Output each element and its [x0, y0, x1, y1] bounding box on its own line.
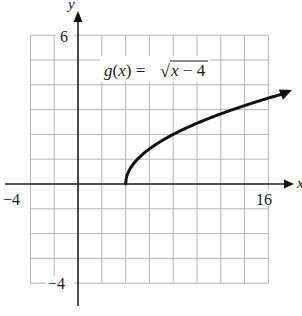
x-min-tick-label: −4: [3, 191, 20, 208]
radical-sign-icon: √: [160, 61, 170, 81]
function-graph: x y 6 −4 16 −4 g(x) = √ x − 4: [0, 0, 302, 316]
y-axis-arrow-icon: [74, 11, 83, 22]
y-axis-label: y: [66, 0, 75, 12]
x-axis-label: x: [296, 175, 302, 191]
svg-text:g(x) =: g(x) =: [104, 61, 145, 80]
x-max-tick-label: 16: [256, 191, 272, 208]
x-axis-arrow-icon: [284, 180, 294, 189]
y-max-tick-label: 6: [60, 28, 68, 45]
svg-text:x − 4: x − 4: [170, 61, 206, 80]
y-min-tick-label: −4: [48, 275, 65, 292]
